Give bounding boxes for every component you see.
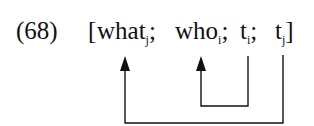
linguistic-example: (68) [ whatj; whoi; ti; tj] bbox=[0, 0, 314, 126]
movement-arrow-i bbox=[201, 56, 248, 106]
movement-arrows bbox=[0, 0, 314, 126]
arrowhead-icon bbox=[120, 56, 130, 71]
arrowhead-icon bbox=[196, 56, 206, 71]
